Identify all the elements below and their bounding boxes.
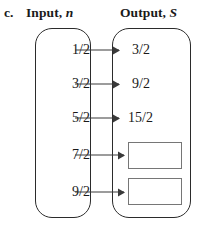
input-column-header: Input, n <box>26 5 73 21</box>
mapping-arrow <box>75 118 119 119</box>
mapping-arrow <box>75 84 119 85</box>
output-value: 3/2 <box>132 43 150 57</box>
mapping-arrow <box>75 192 124 193</box>
output-column-header: Output, S <box>120 5 177 21</box>
mapping-arrow <box>75 155 124 156</box>
output-answer-box[interactable] <box>128 178 182 205</box>
mapping-diagram: c. Input, n Output, S 1/2 3/2 3/2 9/2 5/… <box>0 0 207 233</box>
output-answer-box[interactable] <box>128 142 182 169</box>
item-label: c. <box>4 5 14 21</box>
input-header-text: Input, <box>26 5 62 20</box>
output-header-text: Output, <box>120 5 166 20</box>
output-value: 15/2 <box>128 111 153 125</box>
mapping-arrow <box>75 50 119 51</box>
output-value: 9/2 <box>132 77 150 91</box>
output-header-variable: S <box>170 5 178 20</box>
input-header-variable: n <box>66 5 74 20</box>
